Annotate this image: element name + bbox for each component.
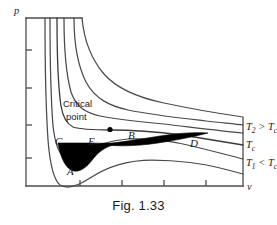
point-label-a: A (66, 165, 74, 177)
pv-isotherm-diagram: Critical point C E B D A p v T2 > Tc Tc … (0, 0, 277, 225)
isotherm-t2-above-critical (74, 18, 243, 125)
temperature-legend: T2 > Tc Tc T1 < Tc (246, 121, 277, 171)
figure-caption: Fig. 1.33 (0, 198, 277, 213)
isotherm-supercritical-mid (64, 18, 243, 133)
temp-label-critical: Tc (246, 139, 256, 153)
point-label-b: B (128, 129, 135, 141)
critical-point-marker (107, 127, 112, 132)
point-label-d: D (189, 137, 198, 149)
temp-below-ref-sub: c (274, 162, 277, 171)
temp-label-below-critical: T1 < Tc (246, 157, 277, 171)
point-label-e: E (87, 135, 95, 147)
y-axis-ticks (26, 50, 32, 158)
temp-crit-sub: c (252, 144, 256, 153)
temp-below-rel: < T (256, 157, 275, 168)
critical-point-label-line2: point (66, 111, 87, 122)
figure-container: Critical point C E B D A p v T2 > Tc Tc … (0, 0, 277, 225)
critical-point-label-line1: Critical (63, 98, 92, 109)
point-label-c: C (55, 135, 63, 147)
y-axis-label: p (13, 5, 19, 16)
x-axis-label: v (247, 181, 252, 192)
temp-above-ref-sub: c (274, 126, 277, 135)
x-axis-ticks (80, 180, 206, 186)
temp-label-above-critical: T2 > Tc (246, 121, 277, 135)
temp-above-rel: > T (256, 121, 275, 132)
